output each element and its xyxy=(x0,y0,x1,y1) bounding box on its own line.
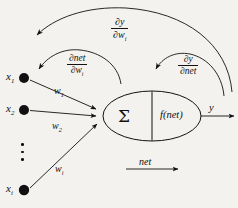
derivative-dy-dnet-denominator: ∂net xyxy=(178,67,198,79)
derivative-dnet-dwi-numerator: ∂net xyxy=(67,54,87,64)
activation-function-label: f(net) xyxy=(160,110,183,121)
derivative-dy-dwi: ∂y ∂wi xyxy=(111,17,128,42)
weight-label-wi-sub: i xyxy=(62,169,64,176)
weight-label-wi: wi xyxy=(55,164,63,176)
weight-line-w2 xyxy=(30,111,96,117)
input-label-xi-sub: i xyxy=(11,189,13,196)
neuron-gradient-diagram: x1 x2 xi w1 w2 wi Σ f(net) net y ∂y ∂wi … xyxy=(0,0,238,208)
summation-symbol: Σ xyxy=(118,106,130,126)
weight-label-w1-text: w xyxy=(54,85,61,96)
weight-line-wi xyxy=(30,124,97,188)
input-label-x1-sub: 1 xyxy=(11,77,14,84)
derivative-dnet-dwi-denominator: ∂wi xyxy=(67,66,87,78)
weight-label-wi-text: w xyxy=(55,163,62,174)
weight-label-w1-sub: 1 xyxy=(61,91,64,98)
derivative-dy-dnet-numerator: ∂y xyxy=(178,55,198,65)
input-label-xi: xi xyxy=(6,183,13,197)
net-label: net xyxy=(139,157,151,167)
weight-label-w1: w1 xyxy=(54,86,64,98)
input-node-x1 xyxy=(19,73,29,83)
derivative-dy-dwi-numerator: ∂y xyxy=(111,17,128,28)
vertical-ellipsis xyxy=(21,143,24,161)
input-label-x2-sub: 2 xyxy=(11,109,14,116)
derivative-dy-dwi-denominator: ∂wi xyxy=(111,30,128,42)
derivative-dy-dnet: ∂y ∂net xyxy=(178,55,198,79)
derivative-dnet-dwi: ∂net ∂wi xyxy=(67,54,87,78)
output-label-y: y xyxy=(209,103,214,114)
input-node-xi xyxy=(19,185,29,195)
weight-label-w2: w2 xyxy=(52,121,62,133)
weight-label-w2-sub: 2 xyxy=(59,126,62,133)
arc-dy-dwi xyxy=(37,8,232,92)
input-label-x1: x1 xyxy=(6,71,14,85)
input-label-x2: x2 xyxy=(6,103,14,117)
weight-label-w2-text: w xyxy=(52,120,59,131)
input-node-x2 xyxy=(19,105,29,115)
